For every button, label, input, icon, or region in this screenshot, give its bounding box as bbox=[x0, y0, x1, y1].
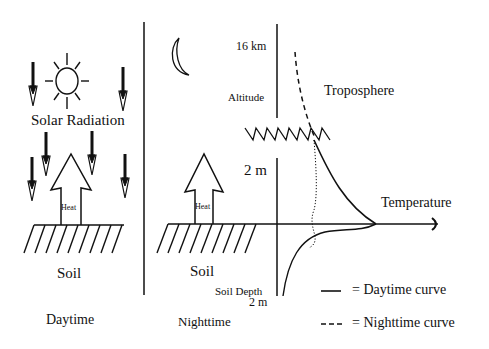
nighttime-curve-surface bbox=[309, 140, 316, 248]
soil-hatch-icon bbox=[157, 224, 258, 253]
soil-label: Soil bbox=[57, 266, 81, 281]
heat-up-arrow-icon bbox=[185, 154, 223, 224]
nighttime-caption: Nighttime bbox=[178, 315, 231, 328]
nighttime-curve-upper bbox=[295, 52, 315, 138]
daytime-curve-air bbox=[314, 140, 376, 224]
profile-axes bbox=[258, 24, 438, 296]
down-arrow-icon bbox=[88, 131, 96, 175]
down-arrow-icon bbox=[28, 157, 36, 201]
soil-hatch-icon bbox=[24, 225, 124, 253]
solar-radiation-label: Solar Radiation bbox=[31, 113, 125, 128]
legend-daytime-label: = Daytime curve bbox=[352, 283, 446, 297]
heat-up-arrow-icon bbox=[51, 154, 91, 225]
down-arrow-icon bbox=[29, 62, 37, 106]
heat-label: Heat bbox=[61, 204, 76, 212]
temperature-label: Temperature bbox=[381, 196, 452, 210]
altitude-label: Altitude bbox=[228, 92, 264, 103]
heat-label: Heat bbox=[195, 203, 210, 211]
moon-icon bbox=[172, 38, 189, 75]
down-arrow-icon bbox=[42, 132, 50, 176]
soil-label: Soil bbox=[190, 264, 214, 279]
sun-icon bbox=[45, 53, 89, 109]
altitude-2m-tick: 2 m bbox=[244, 163, 267, 178]
down-arrow-icon bbox=[121, 154, 129, 198]
legend-nighttime-label: = Nighttime curve bbox=[352, 316, 455, 330]
down-arrow-icon bbox=[119, 67, 127, 111]
soil-depth-2m-tick: 2 m bbox=[249, 296, 267, 308]
daytime-caption: Daytime bbox=[46, 313, 94, 327]
tropopause-zigzag bbox=[245, 128, 330, 140]
troposphere-label: Troposphere bbox=[324, 84, 394, 98]
altitude-16km-tick: 16 km bbox=[236, 40, 266, 52]
